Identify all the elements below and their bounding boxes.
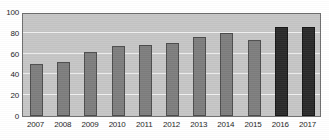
bar-2010: [112, 46, 125, 116]
y-axis-tick-label: 100: [0, 9, 19, 17]
x-axis-tick-label: 2012: [163, 120, 180, 130]
bar-2011: [139, 45, 152, 116]
y-axis-tick-label: 40: [0, 71, 19, 79]
bar-2014: [220, 33, 233, 116]
x-axis-tick-label: 2007: [27, 120, 44, 130]
x-axis-tick-label: 2009: [81, 120, 98, 130]
bar-2008: [57, 62, 70, 116]
y-axis-tick-label: 80: [0, 30, 19, 38]
x-axis-tick-label: 2014: [217, 120, 234, 130]
x-axis-tick-label: 2008: [54, 120, 71, 130]
x-axis-tick-label: 2017: [299, 120, 316, 130]
bar-2016: [275, 27, 288, 116]
x-axis: 2007200820092010201120122013201420152016…: [22, 120, 321, 136]
bar-chart-figure: 020406080100 200720082009201020112012201…: [0, 0, 329, 140]
y-axis: 020406080100: [0, 0, 19, 140]
bars-group: [23, 14, 320, 116]
bar-2012: [166, 43, 179, 116]
bar-2015: [248, 40, 261, 116]
bar-2017: [302, 27, 315, 116]
x-axis-tick-label: 2016: [272, 120, 289, 130]
bar-2007: [30, 64, 43, 116]
plot-area: [22, 13, 321, 117]
x-axis-tick-label: 2013: [190, 120, 207, 130]
y-axis-tick-label: 0: [0, 113, 19, 121]
x-axis-tick-label: 2011: [136, 120, 152, 130]
y-axis-tick-label: 20: [0, 92, 19, 100]
x-axis-tick-label: 2015: [245, 120, 262, 130]
bar-2013: [193, 37, 206, 116]
x-axis-tick-label: 2010: [109, 120, 126, 130]
y-axis-tick-label: 60: [0, 51, 19, 59]
bar-2009: [84, 52, 97, 116]
